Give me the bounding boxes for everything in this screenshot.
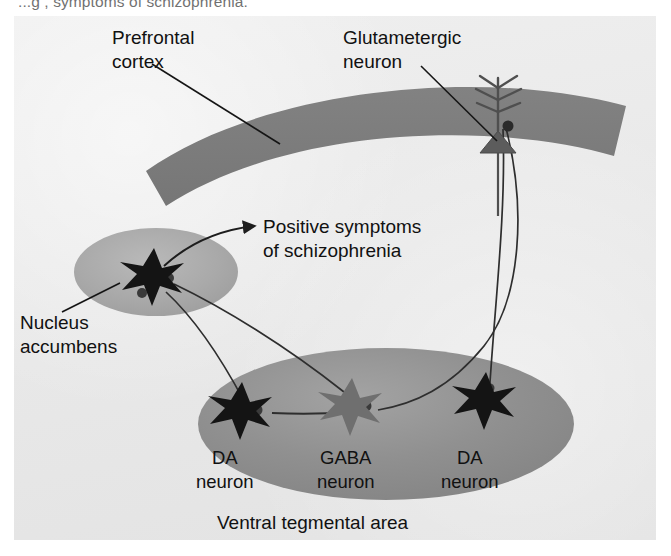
glutametergic-neuron-line-1: Glutametergic <box>343 27 461 48</box>
label-glutametergic-neuron: Glutametergic neuron <box>343 27 461 72</box>
label-nucleus-accumbens: Nucleus accumbens <box>20 312 117 357</box>
nucleus-accumbens-line-1: Nucleus <box>20 312 89 333</box>
figure-panel: Prefrontal cortex Glutametergic neuron P… <box>14 16 656 540</box>
prefrontal-cortex-line-1: Prefrontal <box>112 27 194 48</box>
glutamate-axon-to-da-right <box>489 129 504 396</box>
da-neuron-right-line-2: neuron <box>441 471 499 492</box>
clipped-caption-line: ...g , symptoms of schizophrenia. <box>18 0 248 11</box>
bouton-cortex-soma <box>503 121 514 132</box>
bouton-accumbens-b <box>137 288 147 298</box>
leader-prefrontal-cortex <box>152 64 280 144</box>
positive-symptoms-line-2: of schizophrenia <box>263 240 402 261</box>
figure-root: ...g , symptoms of schizophrenia. <box>0 0 671 556</box>
ventral-tegmental-area-ellipse <box>198 348 574 500</box>
label-positive-symptoms: Positive symptoms of schizophrenia <box>263 216 421 261</box>
label-ventral-tegmental-area: Ventral tegmental area <box>217 512 409 533</box>
prefrontal-cortex-line-2: cortex <box>112 51 164 72</box>
glutametergic-neuron-line-2: neuron <box>343 51 402 72</box>
gaba-neuron-line-1: GABA <box>320 447 372 468</box>
da-neuron-left-line-2: neuron <box>196 471 254 492</box>
diagram-canvas: Prefrontal cortex Glutametergic neuron P… <box>14 16 656 540</box>
gaba-neuron-line-2: neuron <box>317 471 375 492</box>
da-neuron-right-line-1: DA <box>457 447 483 468</box>
da-neuron-left-line-1: DA <box>212 447 238 468</box>
nucleus-accumbens-line-2: accumbens <box>20 336 117 357</box>
label-prefrontal-cortex: Prefrontal cortex <box>112 27 194 72</box>
positive-symptoms-line-1: Positive symptoms <box>263 216 421 237</box>
